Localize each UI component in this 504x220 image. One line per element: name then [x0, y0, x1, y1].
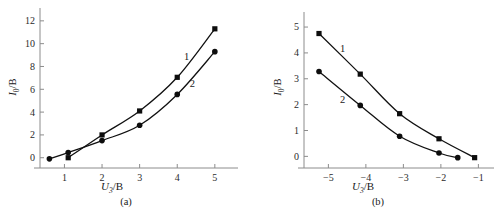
y-tick-label: 4 [30, 107, 35, 118]
y-axis-label-b: I0/B [272, 70, 286, 104]
series-curve-1 [68, 29, 215, 158]
data-point-marker [436, 150, 442, 156]
x-axis-label-b: U3/B [352, 180, 374, 195]
x-axis-label-a: U3/B [101, 180, 123, 195]
data-point-marker [212, 49, 218, 55]
data-point-marker [66, 155, 71, 160]
data-point-marker [175, 75, 180, 80]
data-point-marker [99, 138, 105, 144]
series-curve-2 [319, 72, 458, 158]
chart-panel-b: 012345−5−4−3−2−112 U3/B I0/B (b) [252, 0, 504, 220]
data-point-marker [436, 136, 441, 141]
data-point-marker [99, 132, 104, 137]
data-point-marker [137, 108, 142, 113]
chart-panel-a: 0246810121234512 U3/B I0/B (a) [0, 0, 252, 220]
data-point-marker [316, 69, 322, 75]
curve-number-label-2: 2 [340, 94, 345, 105]
data-point-marker [472, 155, 477, 160]
curve-number-label-2: 2 [190, 78, 195, 89]
data-point-marker [137, 122, 143, 128]
panel-caption-b: (b) [252, 196, 504, 207]
data-point-marker [455, 155, 461, 161]
y-tick-label: 4 [294, 47, 299, 58]
y-tick-label: 2 [30, 129, 35, 140]
panel-caption-a: (a) [0, 196, 252, 207]
plot-area-b: 012345−5−4−3−2−112 [252, 0, 504, 220]
data-point-marker [358, 72, 363, 77]
y-tick-label: 0 [294, 151, 299, 162]
y-axis-label-a: I0/B [7, 70, 21, 104]
x-tick-label: −2 [436, 172, 447, 183]
x-tick-label: −3 [398, 172, 409, 183]
y-tick-label: 0 [30, 152, 35, 163]
y-tick-label: 12 [25, 15, 35, 26]
data-point-marker [47, 156, 53, 162]
data-point-marker [357, 103, 363, 109]
y-tick-label: 10 [25, 38, 35, 49]
data-point-marker [65, 150, 71, 156]
data-point-marker [397, 111, 402, 116]
x-tick-label: 1 [62, 172, 67, 183]
y-tick-label: 2 [294, 99, 299, 110]
x-tick-label: −5 [323, 172, 334, 183]
data-point-marker [316, 31, 321, 36]
curve-number-label-1: 1 [340, 43, 345, 54]
figure-container: 0246810121234512 U3/B I0/B (a) 012345−5−… [0, 0, 504, 220]
data-point-marker [174, 92, 180, 98]
series-curve-2 [49, 52, 214, 159]
y-tick-label: 6 [30, 84, 35, 95]
y-tick-label: 3 [294, 73, 299, 84]
data-point-marker [397, 133, 403, 139]
data-point-marker [212, 26, 217, 31]
x-tick-label: −1 [473, 172, 484, 183]
y-tick-label: 1 [294, 125, 299, 136]
x-tick-label: 5 [212, 172, 217, 183]
x-tick-label: 4 [175, 172, 180, 183]
plot-area-a: 0246810121234512 [0, 0, 252, 220]
x-tick-label: 3 [137, 172, 142, 183]
y-tick-label: 8 [30, 61, 35, 72]
curve-number-label-1: 1 [184, 51, 189, 62]
y-tick-label: 5 [294, 21, 299, 32]
